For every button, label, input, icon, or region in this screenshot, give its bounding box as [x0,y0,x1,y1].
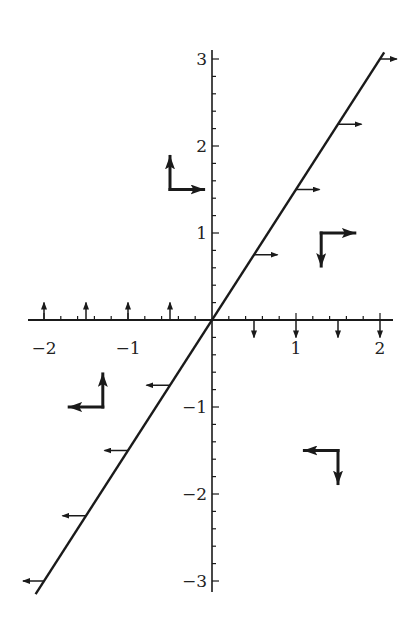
x-tick-label: −1 [115,338,140,358]
x-tick-label: −2 [31,338,56,358]
y-tick-label: −1 [182,397,207,417]
y-tick-label: −2 [182,484,207,504]
y-tick-label: −3 [182,571,207,591]
line-y-equals-1.5x [36,52,385,594]
plot-canvas: −2−112−3−2−1123 [0,0,413,618]
x-tick-label: 2 [375,338,386,358]
basis-pair [170,156,204,189]
basis-pair [321,233,355,266]
basis-pair [69,374,103,407]
line-y-1.5x [36,52,385,594]
x-tick-label: 1 [291,338,302,358]
y-tick-label: 3 [196,49,207,69]
vector-field-plot: −2−112−3−2−1123 [0,0,413,618]
y-tick-label: 2 [196,136,207,156]
y-tick-label: 1 [196,223,207,243]
basis-pair [304,451,338,484]
